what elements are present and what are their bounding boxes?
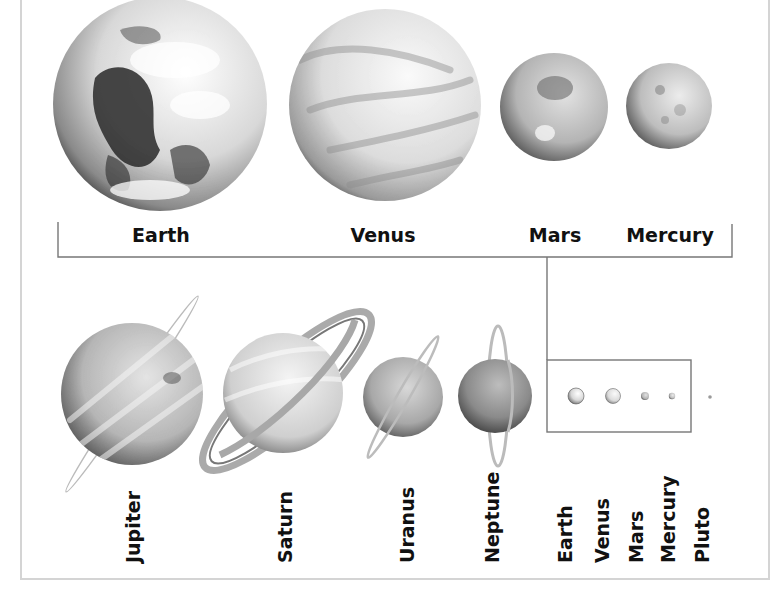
label-mercury: Mercury <box>626 226 714 245</box>
label-mercury-small: Mercury <box>659 475 678 563</box>
label-earth: Earth <box>132 226 190 245</box>
label-venus: Venus <box>351 226 416 245</box>
label-venus-small: Venus <box>593 498 612 563</box>
label-saturn: Saturn <box>276 491 295 563</box>
label-jupiter: Jupiter <box>124 491 143 563</box>
mercury-large <box>626 63 712 149</box>
label-mars: Mars <box>529 226 581 245</box>
label-mars-small: Mars <box>627 511 646 563</box>
label-pluto-small: Pluto <box>693 507 712 563</box>
scale-inset-planets <box>568 388 712 404</box>
saturn <box>185 293 390 490</box>
label-uranus: Uranus <box>398 487 417 563</box>
mars-large <box>500 53 608 161</box>
mars-small <box>641 392 649 400</box>
label-neptune: Neptune <box>483 472 502 563</box>
mercury-small <box>669 393 675 399</box>
label-earth-small: Earth <box>556 505 575 563</box>
neptune <box>458 326 532 466</box>
venus-large <box>289 9 481 201</box>
jupiter <box>61 293 205 495</box>
earth-large <box>53 0 267 211</box>
pluto-small <box>708 395 712 399</box>
earth-small <box>568 388 584 404</box>
uranus <box>363 333 443 460</box>
venus-small <box>606 389 621 404</box>
